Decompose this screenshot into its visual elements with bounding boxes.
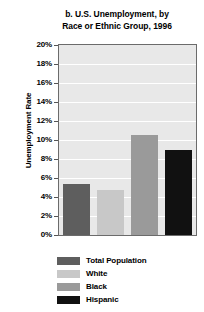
legend-label: Black bbox=[86, 282, 107, 291]
chart-title: b. U.S. Unemployment, by Race or Ethnic … bbox=[34, 9, 200, 32]
bars-layer bbox=[59, 45, 196, 235]
y-axis-tick-label: 12% bbox=[10, 116, 52, 125]
bar-hispanic bbox=[165, 150, 192, 235]
legend-swatch-icon bbox=[57, 270, 80, 278]
legend-item: Black bbox=[57, 280, 202, 293]
legend-item: Total Population bbox=[57, 254, 202, 267]
y-axis-tick-label: 0% bbox=[10, 230, 52, 239]
chart-title-line-2: Race or Ethnic Group, 1996 bbox=[34, 21, 200, 33]
y-axis-tick-label: 14% bbox=[10, 97, 52, 106]
y-axis-tick-label: 16% bbox=[10, 78, 52, 87]
legend-label: Total Population bbox=[86, 256, 146, 265]
bar-white bbox=[97, 190, 124, 235]
legend-label: Hispanic bbox=[86, 295, 119, 304]
y-axis-tick-label: 4% bbox=[10, 192, 52, 201]
plot-area bbox=[58, 44, 197, 236]
y-axis-tick-label: 20% bbox=[10, 40, 52, 49]
y-axis-tick-label: 10% bbox=[10, 135, 52, 144]
legend-swatch-icon bbox=[57, 257, 80, 265]
y-axis-tick-label: 18% bbox=[10, 59, 52, 68]
chart-legend: Total PopulationWhiteBlackHispanic bbox=[57, 254, 202, 306]
y-axis-tick-label: 8% bbox=[10, 154, 52, 163]
bar-black bbox=[131, 135, 158, 235]
bar-total-population bbox=[63, 184, 90, 235]
y-axis-tick-label: 2% bbox=[10, 211, 52, 220]
legend-swatch-icon bbox=[57, 283, 80, 291]
legend-item: White bbox=[57, 267, 202, 280]
legend-swatch-icon bbox=[57, 296, 80, 304]
legend-label: White bbox=[86, 269, 107, 278]
chart-title-line-1: b. U.S. Unemployment, by bbox=[34, 9, 200, 21]
legend-item: Hispanic bbox=[57, 293, 202, 306]
unemployment-bar-chart: b. U.S. Unemployment, by Race or Ethnic … bbox=[0, 0, 204, 312]
y-axis-tick-label: 6% bbox=[10, 173, 52, 182]
